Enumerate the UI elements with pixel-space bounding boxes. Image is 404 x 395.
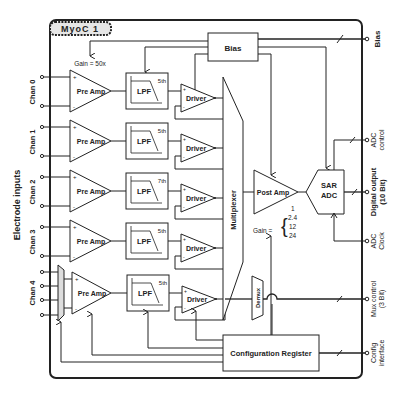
electrode-inputs-label: Electrode inputs <box>12 170 22 241</box>
multiplexer-label: Multiplexer <box>229 190 238 230</box>
chan4-label: Chan 4 <box>28 280 37 306</box>
adc-label-1: SAR <box>321 181 337 190</box>
lpf-1-label: LPF <box>137 137 152 146</box>
driver-3-label: Driver <box>186 245 207 252</box>
channel-row-2: Chan 2 + - Pre Amp LPF 7th + - Driver <box>28 170 224 219</box>
pin-minus: - <box>75 306 77 312</box>
chan1-label: Chan 1 <box>28 129 37 154</box>
pin-plus: + <box>73 174 77 180</box>
chan2-minus-pin[interactable] <box>40 204 43 207</box>
lpf-4-order: 5th <box>159 280 167 286</box>
adc-clock-pin[interactable] <box>365 239 369 243</box>
pin-plus: + <box>73 74 77 80</box>
configuration-register-label: Configuration Register <box>230 349 311 358</box>
myoc-block-diagram: MyoC 1 Electrode inputs Bias Gain = 50x … <box>0 0 404 395</box>
post-amp-label: Post Amp <box>257 189 289 197</box>
preamp-2-label: Pre Amp <box>77 188 106 196</box>
mux-control-pin[interactable] <box>365 297 369 301</box>
lpf-0-label: LPF <box>137 87 152 96</box>
preamp-4-label: Pre Amp <box>78 290 107 298</box>
chan3-minus-pin[interactable] <box>40 254 43 257</box>
gain-option-0: 1 <box>291 205 295 212</box>
pin-plus: + <box>183 236 186 242</box>
bias-output-pin[interactable] <box>365 37 369 41</box>
post-amp-gain-label: Gain = <box>253 227 273 234</box>
preamp-gain-label: Gain = 50x <box>74 60 106 67</box>
channel-row-4: Chan 4 + - Pre Amp LPF 5th + - Driver <box>28 265 225 321</box>
pin-plus: + <box>183 136 186 142</box>
pin-minus: - <box>73 254 75 260</box>
demux-label: Demux <box>255 287 261 308</box>
preamp-3-label: Pre Amp <box>77 238 106 246</box>
driver-4-label: Driver <box>187 296 208 303</box>
adc-control-label-1: ADC <box>370 133 377 148</box>
digital-output-label-2: (10 Bit) <box>378 179 387 205</box>
input-mux-chan4 <box>58 265 64 321</box>
adc-label-2: ADC <box>321 191 338 200</box>
config-interface-pin[interactable] <box>365 351 369 355</box>
adc-control-pin[interactable] <box>365 138 369 142</box>
lpf-0-order: 5th <box>158 78 166 84</box>
pin-plus: + <box>75 276 79 282</box>
lpf-2-label: LPF <box>137 187 152 196</box>
bias-block-label: Bias <box>225 44 242 53</box>
chip-title: MyoC 1 <box>61 24 99 34</box>
driver-2-label: Driver <box>186 195 207 202</box>
channel-row-3: Chan 3 + - Pre Amp LPF 5th + - Driver <box>28 220 224 269</box>
pin-plus: + <box>183 86 186 92</box>
gain-option-2: 12 <box>289 223 297 230</box>
lpf-2-order: 7th <box>158 178 166 184</box>
config-interface-label-2: interface <box>378 339 385 366</box>
config-interface-label-1: Config <box>370 343 378 363</box>
preamp-0-label: Pre Amp <box>77 88 106 96</box>
lpf-4-label: LPF <box>138 289 153 298</box>
pin-plus: + <box>73 224 77 230</box>
gain-option-1: 2.4 <box>288 214 297 221</box>
adc-clock-label-2: Clock <box>378 232 385 250</box>
chan1-plus-pin[interactable] <box>40 125 43 128</box>
pin-minus: - <box>73 154 75 160</box>
lpf-3-order: 5th <box>158 228 166 234</box>
gain-option-3: 24 <box>289 232 297 239</box>
digital-output-label-1: Digital output <box>369 167 378 216</box>
preamp-1-label: Pre Amp <box>77 138 106 146</box>
gain-brace: { <box>281 215 288 237</box>
lpf-1-order: 5th <box>158 128 166 134</box>
bias-output-label: Bias <box>373 30 382 47</box>
adc-clock-label-1: ADC <box>370 234 377 249</box>
pin-plus: + <box>183 186 186 192</box>
adc-control-label-2: control <box>378 129 385 150</box>
pin-minus: - <box>73 204 75 210</box>
mux-control-label-1: Mux control <box>370 280 377 317</box>
chan1-minus-pin[interactable] <box>40 154 43 157</box>
mux-control-label-2: (3 Bit) <box>378 290 386 309</box>
pin-plus: + <box>73 124 77 130</box>
chan0-minus-pin[interactable] <box>40 104 43 107</box>
channel-row-1: Chan 1 + - Pre Amp LPF 5th + - Driver <box>28 120 224 169</box>
chan3-label: Chan 3 <box>28 229 37 254</box>
pin-plus: + <box>184 288 187 294</box>
driver-1-label: Driver <box>186 145 207 152</box>
chan2-label: Chan 2 <box>28 179 37 204</box>
chan2-plus-pin[interactable] <box>40 175 43 178</box>
chan0-label: Chan 0 <box>28 79 37 104</box>
lpf-3-label: LPF <box>137 237 152 246</box>
pin-minus: - <box>73 104 75 110</box>
chan0-plus-pin[interactable] <box>40 75 43 78</box>
chan3-plus-pin[interactable] <box>40 225 43 228</box>
driver-0-label: Driver <box>186 95 207 102</box>
